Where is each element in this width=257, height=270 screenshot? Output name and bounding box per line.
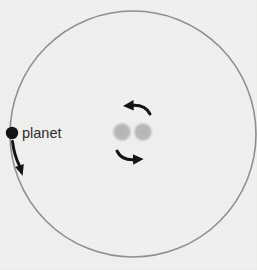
central-binary-stars: [111, 121, 153, 142]
planet-dot: [6, 127, 18, 139]
planet-label: planet: [22, 125, 62, 141]
planet-orbit-direction-arrow: [13, 142, 24, 176]
binary-rotation-arrow-bottom: [117, 151, 144, 165]
orbital-diagram: planet: [0, 0, 257, 270]
diagram-canvas: planet: [0, 0, 257, 270]
binary-rotation-arrow-top: [123, 100, 150, 114]
star-right: [132, 121, 153, 142]
star-left: [111, 121, 132, 142]
